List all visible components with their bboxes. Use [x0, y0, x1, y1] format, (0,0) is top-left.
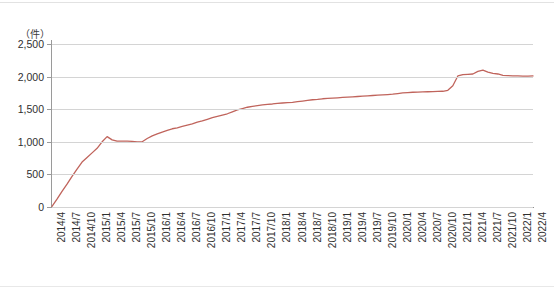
x-axis-tick-label: 2018/1 [281, 212, 292, 243]
x-axis-tick-label: 2014/7 [71, 212, 82, 243]
x-axis-tick-label: 2016/10 [206, 212, 217, 248]
x-axis-tick-label: 2017/10 [266, 212, 277, 248]
chart-figure: （件） 05001,0001,5002,0002,500 2014/42014/… [0, 0, 554, 296]
x-axis-tick-label: 2020/4 [417, 212, 428, 243]
x-axis-tick-label: 2021/4 [477, 212, 488, 243]
x-axis-tick-label: 2021/1 [462, 212, 473, 243]
gridline [52, 174, 533, 175]
x-axis-tick-label: 2020/7 [432, 212, 443, 243]
x-axis-tick-label: 2020/1 [402, 212, 413, 243]
x-axis-tick-label: 2016/4 [176, 212, 187, 243]
x-axis-tick-label: 2018/7 [312, 212, 323, 243]
x-axis-tick-label: 2015/10 [146, 212, 157, 248]
x-axis-tick-label: 2019/1 [342, 212, 353, 243]
x-axis-tick-label: 2016/7 [191, 212, 202, 243]
y-axis-tick-label: 1,500 [18, 103, 44, 115]
y-axis-tick-label: 1,000 [18, 136, 44, 148]
gridline [52, 44, 533, 45]
x-axis-tick-label: 2015/4 [116, 212, 127, 243]
data-series-line [52, 44, 533, 207]
x-axis-tick-label: 2021/7 [492, 212, 503, 243]
y-axis-tick [47, 109, 51, 110]
x-axis-tick-label: 2020/10 [447, 212, 458, 248]
x-axis-tick-label: 2014/10 [86, 212, 97, 248]
x-axis-tick-label: 2014/4 [56, 212, 67, 243]
y-axis-tick-label: 0 [38, 201, 44, 213]
plot-area [52, 44, 533, 207]
x-axis-tick-label: 2017/4 [236, 212, 247, 243]
gridline [52, 77, 533, 78]
y-axis-tick [47, 44, 51, 45]
x-axis-tick-label: 2018/10 [327, 212, 338, 248]
x-axis-tick-label: 2015/7 [131, 212, 142, 243]
x-axis-tick-label: 2018/4 [297, 212, 308, 243]
y-axis-tick-label: 500 [26, 168, 44, 180]
y-axis-tick-label: 2,000 [18, 71, 44, 83]
y-axis-tick [47, 77, 51, 78]
y-axis-labels: 05001,0001,5002,0002,500 [0, 0, 44, 296]
gridline [52, 142, 533, 143]
x-axis-tick-label: 2019/4 [357, 212, 368, 243]
gridline [52, 109, 533, 110]
x-axis-tick-label: 2021/10 [507, 212, 518, 248]
x-axis-tick-label: 2019/7 [372, 212, 383, 243]
y-axis-tick-label: 2,500 [18, 38, 44, 50]
y-axis-tick [47, 207, 51, 208]
x-axis-tick-label: 2017/1 [221, 212, 232, 243]
x-axis-tick-label: 2022/1 [522, 212, 533, 243]
x-axis-tick-label: 2022/4 [537, 212, 548, 243]
x-axis-tick-label: 2017/7 [251, 212, 262, 243]
x-axis-tick-label: 2015/1 [101, 212, 112, 243]
x-axis-tick-label: 2019/10 [387, 212, 398, 248]
y-axis-tick [47, 174, 51, 175]
y-axis-tick [47, 142, 51, 143]
x-axis-tick-label: 2016/1 [161, 212, 172, 243]
gridline [52, 207, 533, 208]
